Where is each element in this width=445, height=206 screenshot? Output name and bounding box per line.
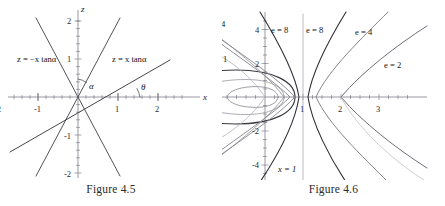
axis-lines <box>222 12 427 180</box>
angle-arc-theta <box>137 89 140 98</box>
figure-4-5: -2 -1 1 2 2 1 -1 -2 x z z = −x tanα z = … <box>0 0 222 206</box>
x-tick-label-3: 3 <box>376 104 380 114</box>
label-e-4-top-left: e = 4 <box>222 19 226 29</box>
x-tick-label-2: 2 <box>338 104 342 114</box>
label-e-1-mid-left: e = 1 <box>222 54 227 64</box>
label-e-4-top-right: e = 4 <box>355 27 373 37</box>
axis-lines <box>8 10 200 178</box>
figure-4-5-caption: Figure 4.5 <box>0 183 222 195</box>
conic-curve-e-8-left <box>260 12 299 180</box>
x-tick-label-neg1: -1 <box>34 104 41 114</box>
figure-4-6-caption: Figure 4.6 <box>222 183 445 195</box>
label-e-8-center-left: e = 8 <box>271 25 288 35</box>
z-tick-label-neg2: -2 <box>64 169 71 179</box>
label-e-8-center-right: e = 8 <box>306 25 323 35</box>
x-tick-label-neg2: -2 <box>0 104 1 114</box>
y-tick-label-2: 2 <box>255 59 259 69</box>
conic-curve-faint-lower-right <box>341 97 427 180</box>
x-axis-name: x <box>202 92 207 102</box>
figure-page: -2 -1 1 2 2 1 -1 -2 x z z = −x tanα z = … <box>0 0 445 206</box>
label-line-right-equation: z = x tanα <box>112 54 147 64</box>
z-axis-name: z <box>80 4 85 14</box>
figure-4-6: 1 2 3 4 2 -2 -4 e = 4 e = 1 e = 0.5 e = … <box>222 0 445 206</box>
conic-curve-e-8-right <box>308 12 346 180</box>
y-tick-label-neg4: -4 <box>252 160 260 170</box>
label-e-2-right: e = 2 <box>384 60 401 70</box>
x-tick-label-1: 1 <box>300 104 304 114</box>
z-tick-label-neg1: -1 <box>64 131 71 141</box>
y-tick-label-4: 4 <box>255 25 260 35</box>
figure-4-5-plot: -2 -1 1 2 2 1 -1 -2 x z z = −x tanα z = … <box>0 0 222 180</box>
y-tick-label-neg2: -2 <box>252 126 259 136</box>
label-angle-alpha: α <box>89 81 94 91</box>
conic-curve-e-4-right <box>316 12 388 180</box>
x-tick-label-2: 2 <box>155 104 159 114</box>
x-tick-label-1: 1 <box>115 104 119 114</box>
z-tick-label-2: 2 <box>67 16 71 26</box>
label-directrix-x-equals-1: x = 1 <box>277 164 296 174</box>
z-tick-label-1: 1 <box>67 54 71 64</box>
label-line-left-equation: z = −x tanα <box>17 54 57 64</box>
label-angle-theta: θ <box>141 82 146 92</box>
figure-4-6-plot: 1 2 3 4 2 -2 -4 e = 4 e = 1 e = 0.5 e = … <box>222 0 445 180</box>
